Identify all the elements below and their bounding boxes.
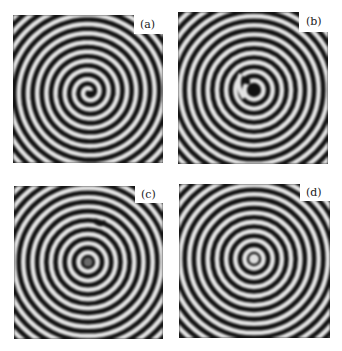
panel-c — [14, 186, 163, 339]
panel-a — [13, 15, 163, 163]
target-wave-image — [14, 186, 163, 339]
panel-label-b: (b) — [306, 16, 322, 27]
panel-label-d: (d) — [306, 187, 322, 198]
spiral-wave-image — [13, 15, 163, 163]
figure: (a) (b) (c) (d) — [0, 0, 342, 351]
panel-b — [178, 12, 328, 164]
target-wave-image — [179, 184, 330, 338]
panel-label-a: (a) — [140, 19, 155, 30]
panel-label-c: (c) — [141, 189, 156, 200]
panel-d — [179, 184, 330, 338]
target-wave-image — [178, 12, 328, 164]
